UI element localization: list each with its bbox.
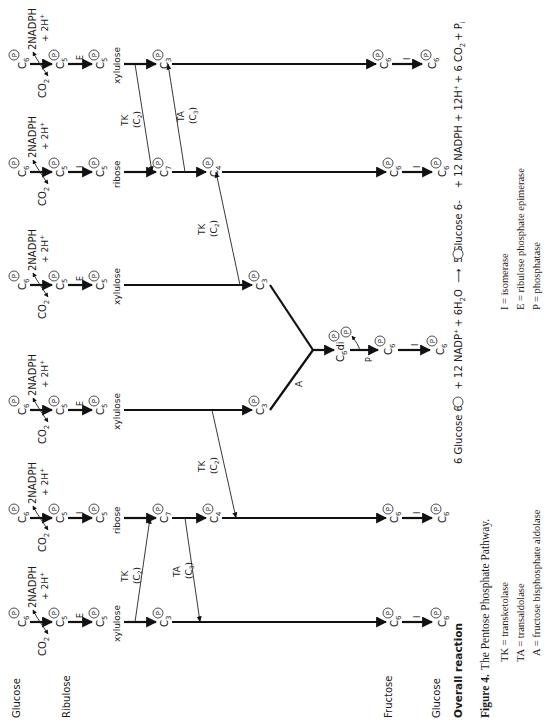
nadph-label: 2NADPH [27, 566, 38, 608]
figure-caption: Figure 4.The Pentose Phosphate Pathway. [479, 519, 492, 718]
svg-text:CO2: CO2 [37, 300, 51, 319]
svg-text:I: I [76, 166, 85, 168]
svg-text:P: P [51, 399, 59, 403]
svg-text:P: P [433, 611, 441, 615]
co2-label: CO2 [37, 637, 51, 656]
svg-text:P: P [11, 274, 19, 278]
tk-transfer-1: TK (C2) [120, 518, 150, 622]
svg-text:P: P [91, 274, 99, 278]
svg-text:P: P [11, 53, 19, 57]
svg-text:+ 2H+: + 2H+ [38, 360, 50, 388]
svg-text:TK: TK [120, 570, 130, 583]
overall-reaction: Overall reaction 6 Glucose 6-+ 12 NADP++… [452, 21, 467, 718]
svg-text:2NADPH: 2NADPH [27, 462, 38, 504]
svg-text:P: P [91, 611, 99, 615]
svg-text:P: P [51, 53, 59, 57]
row-label-glucose-bottom: Glucose [431, 678, 442, 718]
svg-text:P: P [385, 507, 393, 511]
svg-text:2NADPH: 2NADPH [27, 354, 38, 396]
tk-transfer-2: TK (C2) [197, 410, 236, 518]
svg-text:(C3): (C3) [188, 107, 199, 124]
svg-text:CO2: CO2 [37, 425, 51, 444]
svg-text:TK: TK [197, 460, 207, 473]
co2-branch [40, 622, 48, 634]
svg-text:2NADPH: 2NADPH [27, 229, 38, 271]
svg-text:I: I [413, 166, 422, 168]
svg-text:P: P [433, 161, 441, 165]
svg-text:P: P [251, 274, 259, 278]
column-5: C6 P CO2 2NADPH + 2H+ C5 P I C5 P ribose… [9, 116, 451, 206]
tk-transfer-3: TK (C2) [197, 172, 240, 285]
svg-text:C6: C6 [17, 278, 31, 290]
svg-text:TK: TK [120, 114, 130, 127]
svg-text:CO2: CO2 [37, 79, 51, 98]
svg-text:P: P [429, 339, 437, 343]
svg-text:E: E [76, 276, 85, 281]
svg-text:P: P [11, 399, 19, 403]
svg-text:I: I [76, 512, 85, 514]
svg-text:C6: C6 [17, 57, 31, 69]
overall-reaction-label: Overall reaction [452, 623, 464, 718]
column-2: C6 P CO2 2NADPH + 2H+ C5 P I C5 P ribose… [9, 462, 451, 552]
column-1: C6 P CO2 2NADPH + 2H+ C5 P E C5 P xylulo… [9, 566, 451, 656]
svg-text:xylulose: xylulose [112, 46, 122, 84]
svg-text:C6: C6 [435, 343, 449, 355]
column-4: C6 P CO2 2NADPH + 2H+ C5 P E C5 P xylulo… [9, 229, 269, 319]
svg-text:TA: TA [176, 110, 186, 123]
svg-text:P: P [51, 161, 59, 165]
svg-text:P: P [51, 507, 59, 511]
svg-text:P: P [91, 399, 99, 403]
tk-transfer-4: TK (C2) [120, 64, 152, 172]
svg-text:I: I [413, 512, 422, 514]
svg-text:P: P [385, 161, 393, 165]
svg-text:xylulose: xylulose [112, 392, 122, 430]
sugar-label: xylulose [112, 604, 122, 642]
svg-text:P: P [205, 161, 213, 165]
svg-text:xylulose: xylulose [112, 267, 122, 305]
svg-text:P: P [11, 161, 19, 165]
svg-text:C6di: C6di [335, 341, 349, 362]
svg-text:C6: C6 [383, 343, 397, 355]
svg-text:P: P [91, 161, 99, 165]
svg-text:ribose: ribose [112, 506, 122, 534]
svg-text:(C2): (C2) [209, 220, 220, 237]
svg-text:(C2): (C2) [209, 457, 220, 474]
svg-text:A = fructose bisphosphate aldo: A = fructose bisphosphate aldolase [531, 509, 542, 656]
svg-text:P: P [11, 611, 19, 615]
svg-text:+ 2H+: + 2H+ [38, 122, 50, 150]
svg-text:I: I [413, 616, 422, 618]
svg-text:CO2: CO2 [37, 533, 51, 552]
svg-text:P: P [11, 507, 19, 511]
svg-text:P: P [433, 507, 441, 511]
svg-text:(C2): (C2) [132, 111, 143, 128]
svg-text:P: P [155, 507, 163, 511]
svg-text:ribose: ribose [112, 160, 122, 188]
svg-text:TK = transketolase: TK = transketolase [499, 582, 510, 662]
svg-text:C6: C6 [17, 165, 31, 177]
svg-text:E: E [76, 401, 85, 406]
enzyme-label: E [76, 613, 85, 618]
nadph-branch [33, 610, 40, 622]
svg-text:P: P [205, 507, 213, 511]
h-label: + 2H+ [38, 572, 50, 600]
svg-text:P: P [377, 339, 385, 343]
svg-text:P: P [385, 611, 393, 615]
svg-text:P: P [343, 330, 351, 334]
svg-text:P: P [51, 611, 59, 615]
row-label-fructose: Fructose [383, 676, 394, 718]
svg-text:TK: TK [197, 223, 207, 236]
legend-right: I = isomerase E = ribulose phosphate epi… [499, 168, 542, 310]
svg-text:I = isomerase: I = isomerase [499, 253, 510, 310]
column-3: C6 P CO2 2NADPH + 2H+ C5 P E C5 P xylulo… [9, 354, 269, 444]
aldolase-merge: A C6di P P P C6 P I C6 P [270, 285, 449, 410]
svg-text:E: E [76, 55, 85, 60]
svg-text:P: P [51, 274, 59, 278]
svg-text:2NADPH: 2NADPH [27, 116, 38, 158]
svg-text:P: P [155, 53, 163, 57]
pentose-phosphate-figure: Glucose Ribulose Fructose Glucose C6 P C… [0, 0, 544, 722]
svg-text:TA: TA [172, 565, 182, 578]
svg-text:+ 2H+: + 2H+ [38, 235, 50, 263]
legend-left: TK = transketolase TA = transaldolase A … [499, 509, 542, 662]
svg-text:P: P [91, 507, 99, 511]
row-label-ribulose: Ribulose [61, 675, 72, 718]
